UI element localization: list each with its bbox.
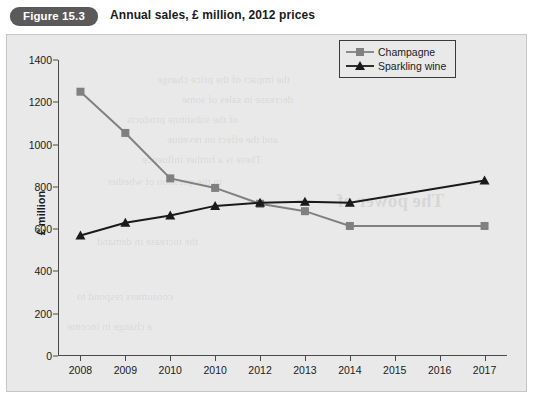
legend-label-champagne: Champagne [378, 46, 435, 58]
data-point-marker [211, 184, 219, 192]
figure-title: Annual sales, £ million, 2012 prices [110, 8, 315, 22]
legend-item-sparkling-wine: Sparkling wine [345, 59, 446, 73]
chart-lines [58, 60, 507, 356]
data-point-marker [76, 88, 84, 96]
data-point-marker [480, 176, 490, 185]
chart-panel: the impact of the price change decrease … [6, 34, 527, 392]
series-line-champagne [80, 92, 484, 226]
chart-legend: Champagne Sparkling wine [339, 40, 456, 78]
x-tick-mark [215, 356, 216, 361]
y-tick-label: 200 [34, 308, 52, 320]
data-point-marker [301, 207, 309, 215]
x-tick-label: 2010 [203, 364, 226, 376]
y-tick-label: 1200 [29, 96, 52, 108]
x-tick-label: 2017 [473, 364, 496, 376]
legend-label-sparkling-wine: Sparkling wine [378, 60, 446, 72]
figure-number-badge: Figure 15.3 [10, 7, 98, 26]
x-tick-label: 2008 [69, 364, 92, 376]
x-tick-mark [395, 356, 396, 361]
x-tick-mark [80, 356, 81, 361]
x-tick-mark [305, 356, 306, 361]
x-tick-mark [350, 356, 351, 361]
x-tick-label: 2009 [114, 364, 137, 376]
plot-area: 0200400600800100012001400 20082009201020… [58, 60, 507, 356]
y-tick-label: 0 [46, 350, 52, 362]
x-tick-mark [440, 356, 441, 361]
y-tick-label: 1000 [29, 139, 52, 151]
x-tick-label: 2010 [159, 364, 182, 376]
y-tick-label: 800 [34, 181, 52, 193]
y-tick-label: 600 [34, 223, 52, 235]
x-tick-mark [260, 356, 261, 361]
x-tick-mark [125, 356, 126, 361]
figure-header: Figure 15.3 Annual sales, £ million, 201… [0, 0, 533, 34]
x-tick-mark [485, 356, 486, 361]
x-tick-label: 2012 [248, 364, 271, 376]
data-point-marker [166, 174, 174, 182]
y-tick-label: 400 [34, 265, 52, 277]
x-tick-label: 2013 [293, 364, 316, 376]
x-tick-mark [170, 356, 171, 361]
x-tick-label: 2014 [338, 364, 361, 376]
x-tick-label: 2015 [383, 364, 406, 376]
data-point-marker [346, 222, 354, 230]
legend-marker-square-icon [345, 45, 375, 59]
legend-item-champagne: Champagne [345, 45, 446, 59]
data-point-marker [481, 222, 489, 230]
x-tick-label: 2016 [428, 364, 451, 376]
data-point-marker [121, 129, 129, 137]
y-tick-label: 1400 [29, 54, 52, 66]
legend-marker-triangle-icon [345, 59, 375, 73]
